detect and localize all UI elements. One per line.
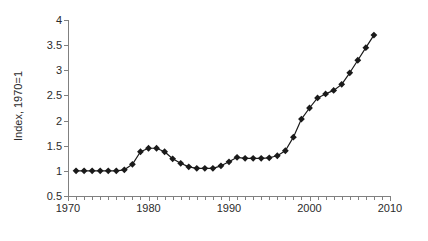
data-point-marker: [362, 44, 369, 51]
data-point-marker: [226, 158, 233, 165]
axis-layer: [64, 20, 391, 201]
data-point-marker: [282, 147, 289, 154]
data-point-marker: [258, 155, 265, 162]
data-point-marker: [97, 167, 104, 174]
data-point-marker: [274, 152, 281, 159]
data-point-marker: [201, 165, 208, 172]
data-point-marker: [105, 167, 112, 174]
chart-canvas: [0, 0, 428, 241]
chart-screenshot: Index, 1970=1 0.511.522.533.54 197019801…: [0, 0, 428, 241]
data-point-marker: [234, 154, 241, 161]
data-point-marker: [290, 134, 297, 141]
data-point-marker: [185, 163, 192, 170]
data-point-marker: [266, 154, 273, 161]
data-point-marker: [371, 32, 378, 39]
data-point-marker: [242, 155, 249, 162]
data-point-marker: [89, 167, 96, 174]
data-point-marker: [322, 91, 329, 98]
data-point-marker: [81, 167, 88, 174]
data-point-marker: [177, 160, 184, 167]
data-point-marker: [210, 165, 217, 172]
data-point-marker: [250, 155, 257, 162]
data-point-marker: [193, 165, 200, 172]
data-point-marker: [354, 57, 361, 64]
data-point-marker: [137, 148, 144, 155]
series-line: [76, 35, 374, 171]
data-point-marker: [145, 145, 152, 152]
series-layer: [73, 32, 378, 175]
data-point-marker: [218, 162, 225, 169]
data-point-marker: [129, 161, 136, 168]
data-point-marker: [121, 166, 128, 173]
data-point-marker: [73, 167, 80, 174]
data-point-marker: [113, 167, 120, 174]
data-point-marker: [153, 145, 160, 152]
